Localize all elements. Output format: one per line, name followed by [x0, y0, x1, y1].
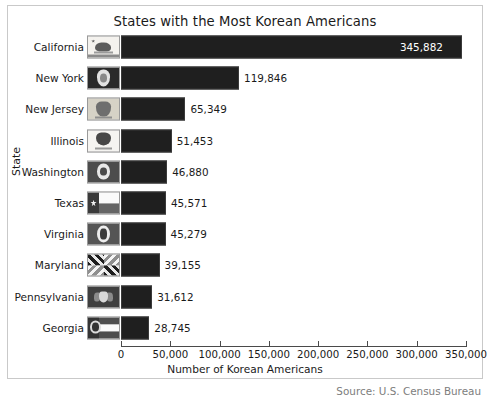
category-label: Pennsylvania — [14, 291, 84, 303]
bar-value-label: 65,349 — [190, 103, 226, 115]
maryland-flag-icon — [87, 254, 120, 277]
bar — [121, 223, 166, 246]
new-york-flag-icon — [87, 67, 120, 90]
category-label: Texas — [55, 197, 84, 209]
chart-row: Virginia45,279 — [8, 219, 482, 249]
x-axis-tick — [417, 341, 418, 347]
bar-value-label: 31,612 — [157, 291, 193, 303]
y-axis-title: State — [10, 147, 23, 176]
x-axis-tick-label: 0 — [118, 349, 124, 360]
illinois-flag-icon — [87, 129, 120, 152]
x-axis-tick-label: 100,000 — [199, 349, 241, 360]
bar-value-label: 45,571 — [171, 197, 207, 209]
category-label: Georgia — [42, 322, 84, 334]
x-axis-tick-label: 300,000 — [396, 349, 438, 360]
chart-row: Maryland39,155 — [8, 250, 482, 280]
x-axis-tick — [170, 341, 171, 347]
x-axis-tick-label: 50,000 — [152, 349, 188, 360]
category-label: Maryland — [35, 259, 84, 271]
chart-row: California345,882 — [8, 32, 482, 62]
chart-row: Washington46,880 — [8, 157, 482, 187]
pennsylvania-flag-icon — [87, 285, 120, 308]
bar — [121, 67, 239, 90]
bar-value-label: 51,453 — [177, 135, 213, 147]
washington-flag-icon — [87, 160, 120, 183]
source-note: Source: U.S. Census Bureau — [336, 385, 481, 397]
bar — [121, 98, 185, 121]
bar — [121, 160, 167, 183]
chart-row: Texas45,571 — [8, 188, 482, 218]
new-jersey-flag-icon — [87, 98, 120, 121]
category-label: Washington — [22, 166, 84, 178]
x-axis-tick-label: 350,000 — [445, 349, 487, 360]
bar-value-label: 45,279 — [171, 228, 207, 240]
category-label: California — [34, 41, 84, 53]
bar — [121, 285, 152, 308]
chart-row: Pennsylvania31,612 — [8, 282, 482, 312]
chart-figure: States with the Most Korean Americans Ca… — [7, 5, 483, 379]
category-label: Illinois — [50, 135, 84, 147]
chart-row: Georgia28,745 — [8, 313, 482, 343]
x-axis-line — [121, 346, 466, 347]
bar-value-label: 28,745 — [154, 322, 190, 334]
chart-row: New York119,846 — [8, 63, 482, 93]
chart-row: Illinois51,453 — [8, 126, 482, 156]
x-axis-tick — [318, 341, 319, 347]
bar — [121, 254, 160, 277]
x-axis-tick — [220, 341, 221, 347]
texas-flag-icon — [87, 192, 120, 215]
x-axis-tick-label: 150,000 — [248, 349, 290, 360]
category-label: New Jersey — [25, 103, 84, 115]
category-label: Virginia — [44, 228, 84, 240]
virginia-flag-icon — [87, 223, 120, 246]
plot-area: California345,882New York119,846New Jers… — [8, 6, 482, 378]
x-axis-tick — [121, 341, 122, 347]
bar — [121, 129, 172, 152]
x-axis-tick — [269, 341, 270, 347]
bar-value-label: 119,846 — [244, 72, 287, 84]
bar-value-label: 39,155 — [165, 259, 201, 271]
bar — [121, 316, 149, 339]
bar-value-label: 46,880 — [172, 166, 208, 178]
chart-row: New Jersey65,349 — [8, 94, 482, 124]
california-flag-icon — [87, 36, 120, 59]
x-axis-title: Number of Korean Americans — [8, 363, 482, 375]
bar — [121, 192, 166, 215]
x-axis-tick — [466, 341, 467, 347]
georgia-flag-icon — [87, 316, 120, 339]
category-label: New York — [35, 72, 84, 84]
x-axis-tick-label: 200,000 — [297, 349, 339, 360]
x-axis-tick-label: 250,000 — [346, 349, 388, 360]
bar-value-label: 345,882 — [400, 41, 443, 53]
x-axis-tick — [367, 341, 368, 347]
